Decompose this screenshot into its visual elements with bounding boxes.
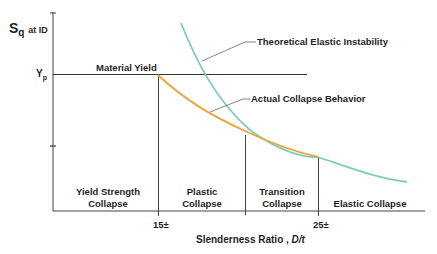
region-plastic-line2: Collapse — [160, 198, 244, 210]
x-tick-25: 25± — [313, 219, 329, 230]
y-axis-label-sub: q — [18, 27, 24, 38]
x-axis-label-text: Slenderness Ratio , — [196, 234, 289, 245]
region-yield-line2: Collapse — [60, 198, 156, 210]
x-axis-label-italic: D/t — [292, 234, 305, 245]
region-plastic: Plastic Collapse — [160, 186, 244, 210]
x-tick-15: 15± — [153, 219, 169, 230]
theoretical-label: Theoretical Elastic Instability — [257, 36, 388, 47]
y-axis-label: Sq at ID — [9, 20, 48, 36]
yp-sub: p — [43, 74, 47, 81]
yp-main: Y — [36, 68, 43, 79]
region-elastic: Elastic Collapse — [320, 198, 420, 210]
region-yield-line1: Yield Strength — [60, 186, 156, 198]
region-plastic-line1: Plastic — [160, 186, 244, 198]
y-axis-label-main: S — [9, 20, 18, 36]
region-elastic-line1: Elastic Collapse — [320, 198, 420, 210]
theoretical-leader — [202, 42, 256, 61]
actual-label: Actual Collapse Behavior — [251, 93, 366, 104]
yp-tick-label: Yp — [36, 68, 47, 79]
region-transition-line2: Collapse — [247, 198, 317, 210]
x-axis-label: Slenderness Ratio , D/t — [196, 234, 305, 245]
region-yield-strength: Yield Strength Collapse — [60, 186, 156, 210]
y-axis-label-suffix: at ID — [28, 25, 48, 35]
material-yield-label: Material Yield — [96, 62, 157, 73]
region-transition: Transition Collapse — [247, 186, 317, 210]
actual-curve — [158, 75, 318, 157]
region-transition-line1: Transition — [247, 186, 317, 198]
